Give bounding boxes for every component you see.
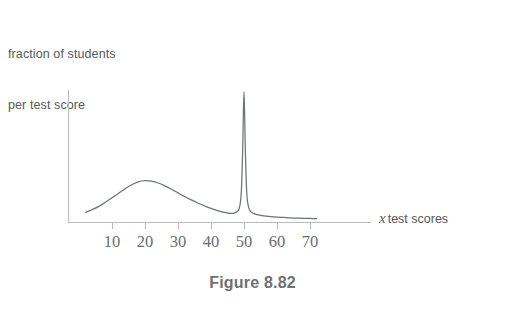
- x-tick-label-30: 30: [170, 232, 187, 252]
- x-axis-variable: x: [379, 210, 388, 226]
- figure-container: fraction of students per test score: [0, 0, 505, 313]
- x-tick-label-70: 70: [302, 232, 319, 252]
- density-curve: [86, 92, 317, 219]
- x-tick-label-20: 20: [137, 232, 154, 252]
- plot-area: 10 20 30 40 50 60 70 xtest scores: [0, 0, 505, 265]
- x-tick-label-50: 50: [236, 232, 253, 252]
- x-tick-label-60: 60: [269, 232, 286, 252]
- x-axis-label-text: test scores: [388, 212, 448, 226]
- x-tick-label-10: 10: [104, 232, 121, 252]
- x-axis-label: xtest scores: [379, 210, 448, 227]
- figure-caption: Figure 8.82: [0, 274, 505, 292]
- x-tick-label-40: 40: [203, 232, 220, 252]
